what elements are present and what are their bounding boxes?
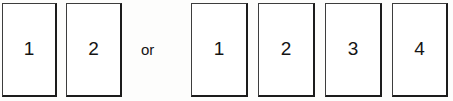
box-label: 1 — [214, 39, 225, 58]
box-right-1[interactable]: 1 — [191, 3, 248, 97]
box-label: 4 — [414, 39, 425, 58]
figure-canvas: 1 2 or 1 2 3 4 — [0, 0, 453, 101]
box-right-4[interactable]: 4 — [392, 3, 448, 97]
box-right-2[interactable]: 2 — [258, 3, 315, 97]
box-label: 3 — [348, 39, 359, 58]
box-right-3[interactable]: 3 — [325, 3, 382, 97]
box-label: 2 — [88, 39, 99, 58]
conjunction-or: or — [141, 42, 154, 57]
box-left-2[interactable]: 2 — [66, 3, 122, 97]
box-label: 1 — [24, 39, 35, 58]
box-label: 2 — [281, 39, 292, 58]
box-left-1[interactable]: 1 — [2, 3, 57, 97]
